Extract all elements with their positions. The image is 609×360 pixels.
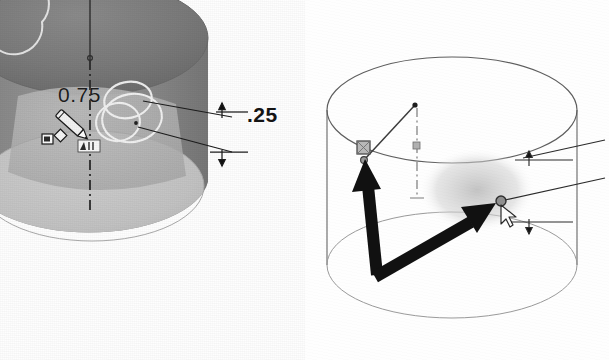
leader-origin-dot	[134, 121, 138, 125]
figure-canvas: 0.75 .25	[0, 0, 609, 360]
dimension-label-025-left[interactable]: .25	[247, 104, 278, 125]
dimension-label-0-75[interactable]: 0.75	[58, 84, 101, 105]
arrow-to-vertex-point[interactable]	[352, 159, 381, 275]
right-view-graphics	[305, 0, 609, 360]
square-vertex-marker[interactable]	[357, 141, 370, 154]
radius-construction-line[interactable]	[364, 102, 418, 160]
dimension-value-badge[interactable]	[78, 140, 100, 152]
right-wireframe-view[interactable]: .25	[305, 0, 609, 360]
left-view-graphics	[0, 0, 305, 360]
left-shaded-view[interactable]: 0.75 .25	[0, 0, 305, 360]
